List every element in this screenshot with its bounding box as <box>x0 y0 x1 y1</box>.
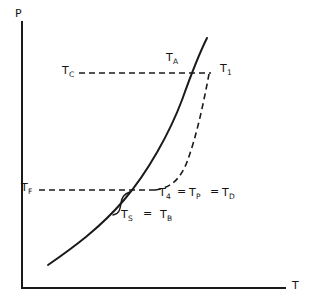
diagram-canvas <box>0 0 311 306</box>
label-tp-sub: P <box>196 192 201 201</box>
label-t1-base: T <box>220 62 227 75</box>
label-td: TD <box>222 187 235 198</box>
equals-t4-tp-text: = <box>177 185 186 198</box>
label-ta-sub: A <box>173 57 178 66</box>
x-axis-label-text: T <box>292 279 299 292</box>
equals-ts-tb: = <box>143 208 152 219</box>
label-td-base: T <box>222 186 229 199</box>
x-axis-label: T <box>292 280 299 291</box>
label-t4-sub: 4 <box>166 192 171 201</box>
label-t4-base: T <box>159 186 166 199</box>
equals-tp-td-text: = <box>210 185 219 198</box>
label-ta: TA <box>166 52 178 63</box>
label-t4: T4 <box>159 187 171 198</box>
label-tp: TP <box>189 187 200 198</box>
label-ts: TS <box>121 209 133 220</box>
phase-diagram-figure: P T TC TA T1 TF TS = TB T4 = TP = TD <box>0 0 311 306</box>
equals-tp-td: = <box>210 186 219 197</box>
label-td-sub: D <box>229 192 235 201</box>
label-tc-base: T <box>62 64 69 77</box>
label-tb: TB <box>160 209 172 220</box>
label-tp-base: T <box>189 186 196 199</box>
label-tf-base: T <box>21 181 28 194</box>
label-ta-base: T <box>166 51 173 64</box>
label-tf: TF <box>21 182 32 193</box>
label-ts-sub: S <box>128 214 133 223</box>
label-t1-sub: 1 <box>227 68 232 77</box>
equals-t4-tp: = <box>177 186 186 197</box>
label-tf-sub: F <box>28 187 32 196</box>
dashed-metastable-curve <box>155 74 209 190</box>
label-tc: TC <box>62 65 74 76</box>
label-tb-base: T <box>160 208 167 221</box>
label-ts-base: T <box>121 208 128 221</box>
label-t1: T1 <box>220 63 232 74</box>
label-tb-sub: B <box>167 214 172 223</box>
label-tc-sub: C <box>69 70 74 79</box>
y-axis-label-text: P <box>15 7 22 20</box>
equals-ts-tb-text: = <box>143 207 152 220</box>
y-axis-label: P <box>15 8 22 19</box>
